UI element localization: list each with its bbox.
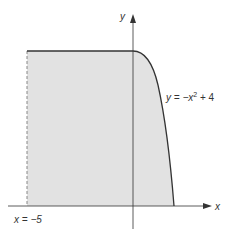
- x-axis-label: x: [214, 201, 221, 212]
- y-axis-arrow-icon: [130, 14, 136, 23]
- y-axis-label: y: [119, 11, 126, 22]
- x-axis-arrow-icon: [203, 203, 212, 209]
- shaded-region: [27, 51, 174, 206]
- curve-equation-label: y = −x2 + 4: [165, 91, 215, 103]
- boundary-label: x = −5: [13, 214, 42, 225]
- region-diagram: x y y = −x2 + 4 x = −5: [0, 0, 228, 235]
